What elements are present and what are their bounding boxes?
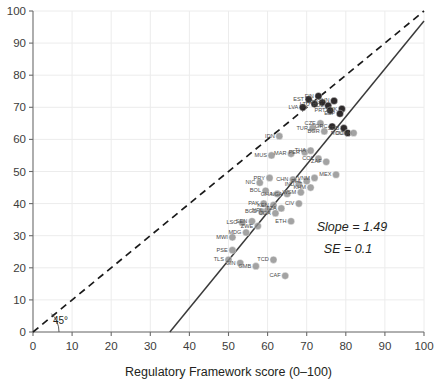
data-point-label: MAR bbox=[274, 150, 286, 156]
data-point bbox=[330, 97, 337, 104]
data-point-label: MWI bbox=[216, 234, 228, 240]
data-point bbox=[307, 147, 314, 154]
data-point-label: DOM bbox=[336, 130, 349, 136]
x-tick-label: 30 bbox=[144, 340, 157, 352]
x-tick-label: 70 bbox=[300, 340, 313, 352]
x-tick-label: 40 bbox=[183, 340, 196, 352]
data-point bbox=[229, 247, 236, 254]
x-tick-label: 80 bbox=[339, 340, 352, 352]
plot-svg: 0102030405060708090100010203040506070809… bbox=[0, 0, 440, 380]
data-point bbox=[311, 174, 318, 181]
data-point-label: ETH bbox=[275, 218, 286, 224]
data-point bbox=[270, 256, 277, 263]
y-tick-label: 50 bbox=[13, 166, 26, 178]
data-point-label: ESP bbox=[324, 110, 335, 116]
data-point-label: FIN bbox=[305, 93, 314, 99]
data-point-label: THA bbox=[295, 147, 306, 153]
data-point bbox=[278, 205, 285, 212]
data-point bbox=[252, 263, 259, 270]
slope-annotation: Slope = 1.49 bbox=[317, 220, 388, 234]
data-point-label: VNM bbox=[297, 175, 310, 181]
angle-label: 45° bbox=[53, 315, 68, 326]
y-tick-label: 90 bbox=[13, 37, 26, 49]
data-point-label: NIC bbox=[246, 179, 256, 185]
y-tick-label: 70 bbox=[13, 101, 26, 113]
x-tick-label: 90 bbox=[379, 340, 392, 352]
data-point bbox=[323, 158, 330, 165]
se-annotation: SE = 0.1 bbox=[324, 242, 372, 256]
scatter-chart: 0102030405060708090100010203040506070809… bbox=[0, 0, 440, 380]
x-tick-label: 60 bbox=[261, 340, 274, 352]
y-tick-label: 40 bbox=[13, 198, 26, 210]
data-point bbox=[307, 184, 314, 191]
data-point-label: LVA bbox=[288, 104, 298, 110]
y-tick-label: 20 bbox=[13, 262, 26, 274]
data-point-label: GIN bbox=[226, 260, 236, 266]
data-point-label: SVN bbox=[318, 97, 330, 103]
data-point bbox=[282, 272, 289, 279]
data-point-label: CIV bbox=[285, 200, 295, 206]
data-point-label: BGR bbox=[308, 128, 320, 134]
data-point bbox=[266, 174, 273, 181]
data-point bbox=[242, 229, 249, 236]
x-tick-label: 0 bbox=[30, 340, 36, 352]
data-point-label: WSM bbox=[283, 189, 297, 195]
x-tick-label: 10 bbox=[66, 340, 79, 352]
data-point-label: BOL bbox=[250, 187, 261, 193]
data-point-label: MUS bbox=[254, 152, 267, 158]
x-tick-label: 50 bbox=[222, 340, 235, 352]
data-point bbox=[350, 129, 357, 136]
data-point bbox=[276, 133, 283, 140]
data-point-label: ZWE bbox=[241, 223, 254, 229]
y-tick-label: 60 bbox=[13, 133, 26, 145]
y-tick-label: 80 bbox=[13, 69, 26, 81]
y-tick-label: 10 bbox=[13, 294, 26, 306]
data-point bbox=[254, 222, 261, 229]
y-tick-label: 30 bbox=[13, 230, 26, 242]
data-point bbox=[332, 171, 339, 178]
y-tick-label: 0 bbox=[20, 326, 26, 338]
data-point bbox=[336, 110, 343, 117]
data-point bbox=[295, 200, 302, 207]
data-point-label: MEX bbox=[319, 171, 331, 177]
data-point-label: GMB bbox=[239, 263, 252, 269]
data-point-label: PSE bbox=[217, 247, 228, 253]
data-point-label: CAF bbox=[269, 272, 281, 278]
data-point-label: TLS bbox=[214, 256, 225, 262]
y-tick-label: 100 bbox=[7, 5, 26, 17]
x-tick-label: 20 bbox=[105, 340, 118, 352]
data-point-label: IDN bbox=[265, 133, 275, 139]
x-tick-label: 100 bbox=[414, 340, 433, 352]
data-point bbox=[287, 218, 294, 225]
data-point-label: TCD bbox=[257, 256, 269, 262]
data-point-label: TZA bbox=[266, 205, 277, 211]
x-axis-title: Regulatory Framework score (0–100) bbox=[125, 365, 332, 379]
data-point-label: NGA bbox=[270, 191, 282, 197]
data-point-label: ZAF bbox=[311, 158, 322, 164]
data-point-label: TUR bbox=[296, 125, 308, 131]
data-point-label: PRY bbox=[254, 175, 266, 181]
data-point-label: MDG bbox=[228, 229, 241, 235]
